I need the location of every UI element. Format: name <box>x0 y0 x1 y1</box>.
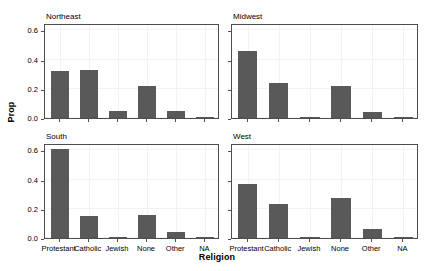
x-axis-tick <box>88 119 89 122</box>
y-axis-tick <box>41 31 44 32</box>
bar-west-other <box>363 229 382 239</box>
x-axis-tick-label-na: NA <box>372 244 432 253</box>
bar-midwest-none <box>331 86 350 118</box>
y-axis-tick-label: 0.4 <box>18 177 38 185</box>
x-axis-tick <box>371 119 372 122</box>
x-axis-tick <box>175 239 176 242</box>
x-axis-tick <box>175 119 176 122</box>
bar-south-protestant <box>51 149 69 238</box>
x-axis-tick <box>402 239 403 242</box>
x-axis-tick <box>146 239 147 242</box>
y-axis-tick <box>228 210 231 211</box>
bar-west-protestant <box>238 184 257 238</box>
bar-midwest-protestant <box>238 51 257 118</box>
plot-panel-midwest <box>231 24 418 119</box>
bar-south-na <box>196 237 214 238</box>
y-axis-tick <box>41 151 44 152</box>
bar-northeast-catholic <box>80 70 98 118</box>
plot-panel-west <box>231 144 418 239</box>
y-axis-tick <box>41 181 44 182</box>
y-axis-tick <box>41 119 44 120</box>
bar-midwest-other <box>363 112 382 118</box>
y-axis-tick-label: 0.4 <box>18 57 38 65</box>
bar-group <box>232 25 417 118</box>
x-axis-tick <box>117 119 118 122</box>
y-axis-tick-label: 0.6 <box>18 27 38 35</box>
bar-south-catholic <box>80 216 98 238</box>
bar-midwest-na <box>394 117 413 118</box>
x-axis-tick <box>88 239 89 242</box>
y-axis-tick <box>228 31 231 32</box>
x-axis-tick <box>204 119 205 122</box>
bar-northeast-protestant <box>51 71 69 118</box>
x-axis-tick <box>402 119 403 122</box>
bar-group <box>45 25 218 118</box>
x-axis-tick <box>59 239 60 242</box>
y-axis-tick-label: 0.0 <box>18 235 38 243</box>
y-axis-tick <box>41 239 44 240</box>
bar-west-none <box>331 198 350 238</box>
y-axis-tick <box>228 181 231 182</box>
bar-west-catholic <box>269 204 288 238</box>
x-axis-tick <box>117 239 118 242</box>
facet-title-west: West <box>233 131 251 142</box>
bar-northeast-none <box>138 86 156 118</box>
x-axis-label: Religion <box>0 252 434 262</box>
bar-south-none <box>138 215 156 238</box>
bar-west-na <box>394 237 413 238</box>
bar-northeast-jewish <box>109 111 127 118</box>
plot-panel-south <box>44 144 219 239</box>
x-axis-tick <box>309 239 310 242</box>
y-axis-tick <box>41 210 44 211</box>
y-axis-tick <box>228 61 231 62</box>
facet-title-south: South <box>46 131 67 142</box>
y-axis-tick <box>41 90 44 91</box>
bar-midwest-catholic <box>269 83 288 118</box>
y-axis-tick <box>228 151 231 152</box>
bar-group <box>232 145 417 238</box>
facet-bar-chart-figure: Prop Religion Northeast0.00.20.40.6Midwe… <box>0 0 434 271</box>
x-axis-tick <box>278 239 279 242</box>
x-axis-tick <box>247 239 248 242</box>
x-axis-tick <box>204 239 205 242</box>
y-axis-tick-label: 0.6 <box>18 147 38 155</box>
facet-title-midwest: Midwest <box>233 11 262 22</box>
facet-title-northeast: Northeast <box>46 11 81 22</box>
y-axis-tick <box>228 239 231 240</box>
plot-panel-northeast <box>44 24 219 119</box>
bar-south-jewish <box>109 237 127 238</box>
x-axis-tick <box>340 119 341 122</box>
y-axis-tick-label: 0.2 <box>18 206 38 214</box>
x-axis-tick <box>278 119 279 122</box>
y-axis-tick-label: 0.0 <box>18 115 38 123</box>
x-axis-tick <box>59 119 60 122</box>
y-axis-tick <box>228 90 231 91</box>
bar-group <box>45 145 218 238</box>
y-axis-tick <box>41 61 44 62</box>
x-axis-tick <box>309 119 310 122</box>
x-axis-tick <box>247 119 248 122</box>
y-axis-tick <box>228 119 231 120</box>
y-axis-label: Prop <box>6 82 16 142</box>
bar-midwest-jewish <box>300 117 319 118</box>
y-axis-tick-label: 0.2 <box>18 86 38 94</box>
bar-west-jewish <box>300 237 319 238</box>
bar-northeast-other <box>167 111 185 118</box>
x-axis-tick <box>371 239 372 242</box>
x-axis-tick <box>340 239 341 242</box>
bar-northeast-na <box>196 117 214 118</box>
bar-south-other <box>167 232 185 238</box>
x-axis-tick <box>146 119 147 122</box>
